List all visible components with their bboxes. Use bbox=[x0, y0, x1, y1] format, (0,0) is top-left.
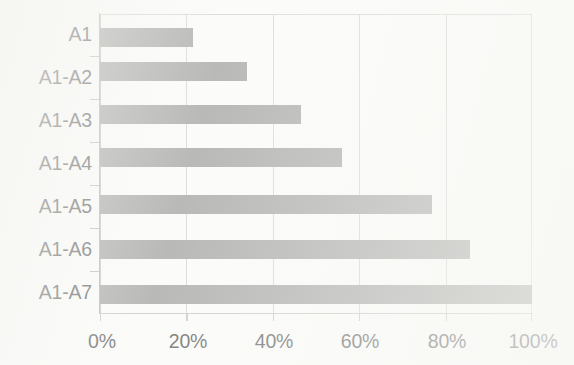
bar-a1-a5 bbox=[100, 195, 432, 214]
category-label-a1-a4: A1-A4 bbox=[6, 152, 92, 175]
bar-a1-a4 bbox=[100, 148, 342, 167]
bar-a1-a7 bbox=[100, 285, 532, 304]
x-tick-100 bbox=[531, 314, 532, 321]
value-label-80: 80% bbox=[428, 330, 466, 353]
category-label-a1-a2: A1-A2 bbox=[6, 66, 92, 89]
value-label-100: 100% bbox=[508, 330, 557, 353]
value-label-0: 0% bbox=[88, 330, 116, 353]
x-tick-40 bbox=[273, 314, 274, 321]
y-tick-5 bbox=[90, 228, 99, 229]
x-tick-60 bbox=[359, 314, 360, 321]
value-label-60: 60% bbox=[341, 330, 379, 353]
bar-a1-a2 bbox=[100, 62, 247, 81]
y-tick-2 bbox=[90, 99, 99, 100]
y-tick-3 bbox=[90, 142, 99, 143]
value-label-40: 40% bbox=[255, 330, 293, 353]
gridline-100 bbox=[531, 14, 532, 313]
y-tick-1 bbox=[90, 56, 99, 57]
category-axis-labels: A1 A1-A2 A1-A3 A1-A4 A1-A5 A1-A6 A1-A7 bbox=[0, 0, 92, 365]
category-label-a1-a7: A1-A7 bbox=[6, 281, 92, 304]
y-tick-6 bbox=[90, 271, 99, 272]
bar-a1-a6 bbox=[100, 240, 470, 259]
category-label-a1-a6: A1-A6 bbox=[6, 238, 92, 261]
gridline-80 bbox=[446, 14, 447, 313]
plot-area bbox=[100, 14, 532, 313]
x-tick-0 bbox=[100, 314, 101, 321]
y-tick-4 bbox=[90, 185, 99, 186]
bar-chart: A1 A1-A2 A1-A3 A1-A4 A1-A5 A1-A6 A1-A7 0… bbox=[0, 0, 574, 365]
bar-a1 bbox=[100, 28, 193, 47]
x-tick-80 bbox=[446, 314, 447, 321]
x-axis-line bbox=[99, 313, 533, 314]
x-tick-20 bbox=[186, 314, 187, 321]
gridline-60 bbox=[359, 14, 360, 313]
category-label-a1-a3: A1-A3 bbox=[6, 109, 92, 132]
bar-a1-a3 bbox=[100, 105, 301, 124]
category-label-a1-a5: A1-A5 bbox=[6, 195, 92, 218]
value-label-20: 20% bbox=[169, 330, 207, 353]
category-label-a1: A1 bbox=[6, 23, 92, 46]
y-axis-line bbox=[99, 13, 100, 314]
plot-top-border bbox=[100, 14, 532, 15]
